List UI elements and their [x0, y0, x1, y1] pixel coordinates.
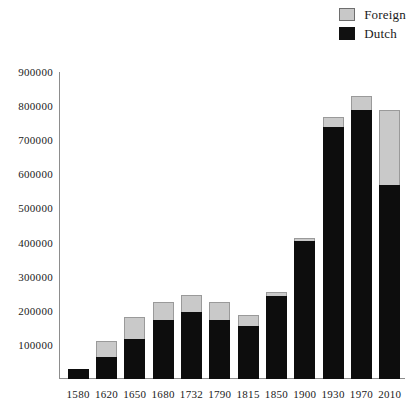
- bar-segment-foreign: [96, 341, 117, 356]
- bar-column: 1850: [262, 72, 290, 379]
- legend-label-foreign: Foreign: [364, 8, 406, 21]
- x-axis-tick-label: 1580: [67, 388, 90, 400]
- stacked-bar: [266, 292, 287, 379]
- bar-column: 1620: [92, 72, 120, 379]
- bar-column: 2010: [376, 72, 404, 379]
- x-axis-tick-label: 1930: [322, 388, 345, 400]
- y-axis-tick-label: 900000: [18, 66, 53, 78]
- legend-swatch-dutch-icon: [339, 27, 355, 40]
- bar-segment-foreign: [181, 295, 202, 313]
- bar-column: 1650: [121, 72, 149, 379]
- bar-segment-dutch: [181, 312, 202, 379]
- y-axis-tick-label: 300000: [18, 271, 53, 283]
- x-axis-tick-label: 1732: [180, 388, 203, 400]
- stacked-bar: [124, 317, 145, 379]
- bar-segment-dutch: [68, 369, 89, 379]
- bar-segment-foreign: [209, 302, 230, 320]
- bar-column: 1970: [347, 72, 375, 379]
- bar-segment-dutch: [323, 127, 344, 379]
- bar-segment-dutch: [96, 357, 117, 379]
- bar-segment-dutch: [379, 185, 400, 379]
- y-axis-tick-label: 200000: [18, 305, 53, 317]
- stacked-bar: [181, 295, 202, 379]
- legend-label-dutch: Dutch: [364, 27, 397, 40]
- stacked-bar: [153, 302, 174, 379]
- bar-segment-foreign: [124, 317, 145, 339]
- x-axis-tick-label: 1900: [293, 388, 316, 400]
- stacked-bar: [323, 117, 344, 379]
- y-axis-tick-label: 800000: [18, 100, 53, 112]
- bar-segment-dutch: [153, 320, 174, 379]
- bar-series-group: 1580162016501680173217901815185019001930…: [59, 72, 404, 379]
- bar-segment-dutch: [351, 110, 372, 379]
- y-axis-tick-label: 500000: [18, 202, 53, 214]
- bar-segment-foreign: [351, 96, 372, 110]
- bar-chart: Foreign Dutch 90000080000070000060000050…: [0, 0, 420, 413]
- stacked-bar: [351, 96, 372, 379]
- stacked-bar: [379, 110, 400, 379]
- bar-segment-foreign: [379, 110, 400, 184]
- stacked-bar: [294, 238, 315, 379]
- stacked-bar: [96, 341, 117, 379]
- legend-item-dutch: Dutch: [339, 27, 406, 40]
- bar-segment-foreign: [153, 302, 174, 320]
- y-axis-tick-label: 600000: [18, 168, 53, 180]
- bar-segment-foreign: [238, 315, 259, 326]
- bar-column: 1580: [64, 72, 92, 379]
- bar-segment-dutch: [209, 320, 230, 379]
- y-axis-tick-label: 100000: [18, 339, 53, 351]
- bar-column: 1732: [177, 72, 205, 379]
- bar-column: 1680: [149, 72, 177, 379]
- chart-legend: Foreign Dutch: [339, 8, 406, 40]
- bar-column: 1790: [206, 72, 234, 379]
- x-axis-tick-label: 1970: [350, 388, 373, 400]
- stacked-bar: [68, 369, 89, 379]
- bar-segment-dutch: [266, 296, 287, 379]
- x-axis-tick-label: 2010: [378, 388, 401, 400]
- bar-segment-dutch: [124, 339, 145, 379]
- y-axis-tick-label: 400000: [18, 237, 53, 249]
- x-axis-tick-label: 1790: [208, 388, 231, 400]
- y-axis-tick-label: 700000: [18, 134, 53, 146]
- bar-column: 1900: [291, 72, 319, 379]
- x-axis-tick-label: 1815: [237, 388, 260, 400]
- stacked-bar: [238, 315, 259, 379]
- bar-segment-dutch: [238, 326, 259, 379]
- bar-column: 1815: [234, 72, 262, 379]
- stacked-bar: [209, 302, 230, 379]
- bar-column: 1930: [319, 72, 347, 379]
- bar-segment-dutch: [294, 241, 315, 379]
- legend-swatch-foreign-icon: [339, 8, 355, 21]
- x-axis-tick-label: 1850: [265, 388, 288, 400]
- x-axis-tick-label: 1650: [123, 388, 146, 400]
- legend-item-foreign: Foreign: [339, 8, 406, 21]
- x-axis-tick-label: 1680: [152, 388, 175, 400]
- plot-area: 9000008000007000006000005000004000003000…: [59, 72, 404, 379]
- x-axis-tick-label: 1620: [95, 388, 118, 400]
- bar-segment-foreign: [323, 117, 344, 127]
